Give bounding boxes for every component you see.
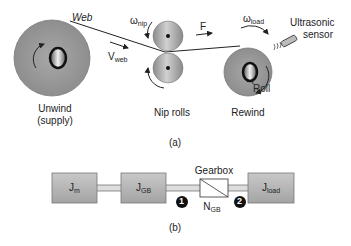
gearbox-label: Gearbox: [195, 166, 233, 176]
roll-label: Roll: [253, 84, 270, 94]
web-label: Web: [72, 13, 92, 23]
unwind-roll: [14, 20, 90, 96]
v-web-arrow: [110, 42, 128, 48]
force-label: F: [200, 22, 206, 32]
jload-label: Jload: [248, 183, 294, 194]
ngb-label: NGB: [203, 202, 220, 213]
nip-rolls: [148, 21, 183, 88]
caption-b: (b): [169, 223, 181, 233]
rewind-label: Rewind: [231, 108, 264, 118]
v-web-label: Vweb: [108, 52, 128, 63]
jgb-label: JGB: [121, 183, 166, 194]
sensor-label: Ultrasonic sensor: [290, 18, 334, 40]
omega-load-label: ωload: [243, 14, 264, 25]
omega-nip-label: ωnip: [130, 16, 147, 27]
marker-1-label: 1: [179, 197, 184, 206]
unwind-label: Unwind (supply): [37, 104, 73, 126]
marker-2-label: 2: [237, 197, 242, 206]
caption-a: (a): [169, 138, 181, 148]
jm-label: Jm: [52, 183, 97, 194]
nip-rolls-label: Nip rolls: [154, 108, 190, 118]
force-arrow: [196, 33, 212, 35]
